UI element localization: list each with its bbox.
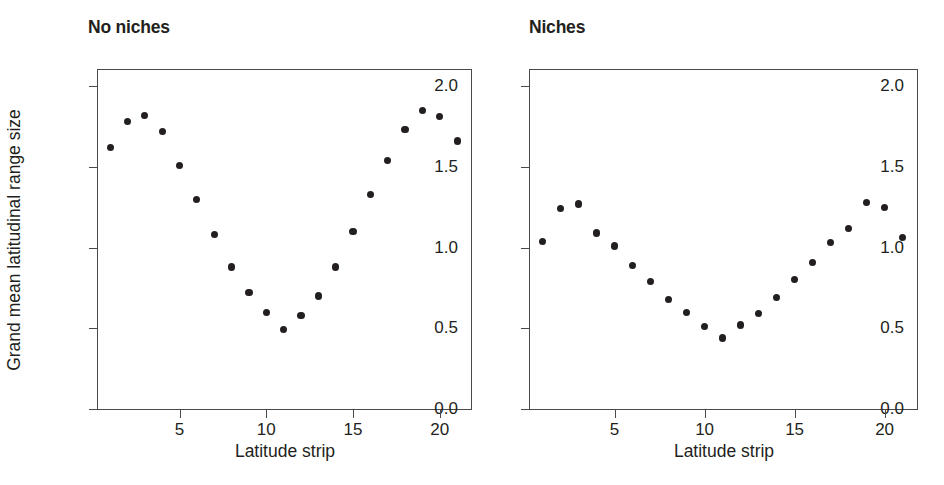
x-axis-title: Latitude strip — [235, 441, 335, 462]
data-point — [863, 199, 870, 206]
y-axis-tick-label: 0.0 — [434, 399, 458, 419]
y-axis-tick — [89, 409, 98, 410]
y-axis-tick — [521, 409, 530, 410]
panel-niches: Niches 0.00.51.01.52.05101520 Latitude s… — [472, 0, 944, 485]
data-point — [384, 157, 391, 164]
y-axis-tick — [89, 248, 98, 249]
data-point — [899, 234, 906, 241]
y-axis-tick-label: 0.5 — [880, 318, 904, 338]
x-axis-tick — [353, 409, 354, 418]
panel-title-niches: Niches — [529, 17, 585, 38]
x-axis-tick — [705, 409, 706, 418]
data-point — [297, 312, 304, 319]
data-point — [332, 263, 339, 270]
data-point — [176, 162, 183, 169]
data-point — [315, 292, 322, 299]
x-axis-tick — [615, 409, 616, 418]
y-axis-tick — [521, 86, 530, 87]
data-point — [454, 137, 461, 144]
y-axis-tick-label: 0.5 — [434, 318, 458, 338]
data-point — [593, 229, 600, 236]
data-point — [211, 231, 218, 238]
plot-area-niches: 0.00.51.01.52.05101520 — [530, 70, 917, 409]
x-axis-tick — [266, 409, 267, 418]
data-point — [436, 113, 443, 120]
data-point — [827, 239, 834, 246]
x-axis-tick-label: 5 — [175, 420, 184, 440]
data-point — [629, 262, 636, 269]
plot-area-no-niches: 0.00.51.01.52.05101520 — [98, 70, 471, 409]
data-point — [557, 205, 564, 212]
y-axis-tick — [521, 248, 530, 249]
x-axis-tick — [885, 409, 886, 418]
data-point — [683, 309, 690, 316]
x-axis-tick-label: 5 — [610, 420, 619, 440]
x-axis-tick-label: 20 — [430, 420, 449, 440]
data-point — [845, 225, 852, 232]
x-axis-tick — [795, 409, 796, 418]
data-point — [575, 200, 582, 207]
data-point — [124, 118, 131, 125]
data-point — [791, 276, 798, 283]
x-axis-tick-label: 10 — [695, 420, 714, 440]
data-point — [401, 126, 408, 133]
y-axis-tick-label: 1.5 — [434, 157, 458, 177]
data-point — [755, 310, 762, 317]
y-axis-tick — [89, 167, 98, 168]
data-point — [773, 294, 780, 301]
data-point — [881, 204, 888, 211]
data-point — [349, 228, 356, 235]
y-axis-tick-label: 1.5 — [880, 157, 904, 177]
x-axis-tick — [180, 409, 181, 418]
y-axis-title: Grand mean latitudinal range size — [4, 109, 25, 371]
data-point — [419, 107, 426, 114]
y-axis-tick — [89, 328, 98, 329]
data-point — [228, 263, 235, 270]
data-point — [245, 289, 252, 296]
data-point — [665, 296, 672, 303]
x-axis-title: Latitude strip — [674, 441, 774, 462]
data-point — [193, 196, 200, 203]
x-axis-tick-label: 15 — [344, 420, 363, 440]
x-axis-tick — [440, 409, 441, 418]
x-axis-tick-label: 20 — [875, 420, 894, 440]
data-point — [280, 326, 287, 333]
data-point — [611, 242, 618, 249]
y-axis-tick — [521, 328, 530, 329]
data-point — [647, 278, 654, 285]
data-point — [719, 334, 726, 341]
data-point — [159, 128, 166, 135]
data-point — [809, 259, 816, 266]
figure-scatter-pair: No niches Grand mean latitudinal range s… — [0, 0, 944, 485]
data-point — [107, 144, 114, 151]
plot-box-no-niches: 0.00.51.01.52.05101520 — [97, 69, 472, 410]
y-axis-tick-label: 2.0 — [434, 76, 458, 96]
panel-title-no-niches: No niches — [88, 17, 170, 38]
plot-box-niches: 0.00.51.01.52.05101520 — [529, 69, 918, 410]
data-point — [539, 238, 546, 245]
data-point — [367, 191, 374, 198]
panel-no-niches: No niches Grand mean latitudinal range s… — [0, 0, 472, 485]
data-point — [737, 321, 744, 328]
y-axis-tick-label: 1.0 — [434, 238, 458, 258]
data-point — [701, 323, 708, 330]
x-axis-tick-label: 15 — [785, 420, 804, 440]
y-axis-tick — [89, 86, 98, 87]
y-axis-tick-label: 2.0 — [880, 76, 904, 96]
x-axis-tick-label: 10 — [257, 420, 276, 440]
data-point — [141, 112, 148, 119]
y-axis-tick — [521, 167, 530, 168]
data-point — [263, 309, 270, 316]
